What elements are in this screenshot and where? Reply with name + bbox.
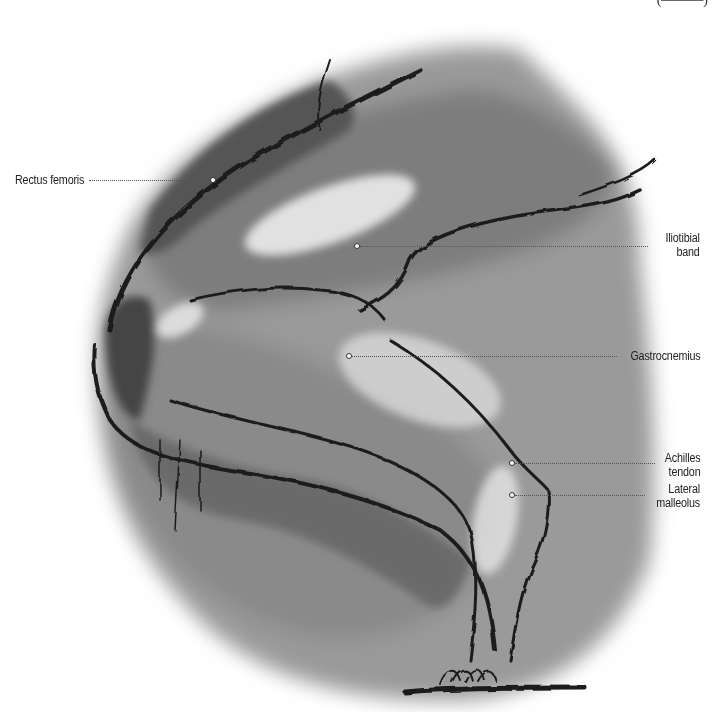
leader-line-iliotibial-band — [360, 246, 648, 247]
leader-line-gastrocnemius — [352, 356, 617, 357]
marker-dot-rectus-femoris — [210, 177, 216, 183]
label-text-line2: band — [666, 245, 700, 259]
leader-line-achilles-tendon — [515, 463, 655, 464]
label-text: Gastrocnemius — [630, 349, 700, 363]
anatomy-figure: Rectus femoris Iliotibial band Gastrocne… — [0, 0, 714, 712]
label-rectus-femoris: Rectus femoris — [15, 173, 84, 187]
label-gastrocnemius: Gastrocnemius — [630, 349, 700, 363]
label-text: Rectus femoris — [15, 173, 84, 187]
marker-dot-lateral-malleolus — [509, 492, 515, 498]
label-text-line1: Achilles — [664, 451, 700, 465]
marker-dot-iliotibial-band — [354, 243, 360, 249]
label-achilles-tendon: Achilles tendon — [664, 451, 700, 479]
label-lateral-malleolus: Lateral malleolus — [656, 482, 700, 510]
label-text-line1: Iliotibial — [666, 231, 700, 245]
label-text-line2: tendon — [664, 465, 700, 479]
leader-line-rectus-femoris — [89, 180, 211, 181]
label-text-line2: malleolus — [656, 496, 700, 510]
label-iliotibial-band: Iliotibial band — [666, 231, 700, 259]
top-caption-fragment: (———) — [657, 0, 708, 8]
marker-dot-gastrocnemius — [346, 353, 352, 359]
marker-dot-achilles-tendon — [509, 460, 515, 466]
leader-line-lateral-malleolus — [515, 495, 645, 496]
label-text-line1: Lateral — [656, 482, 700, 496]
